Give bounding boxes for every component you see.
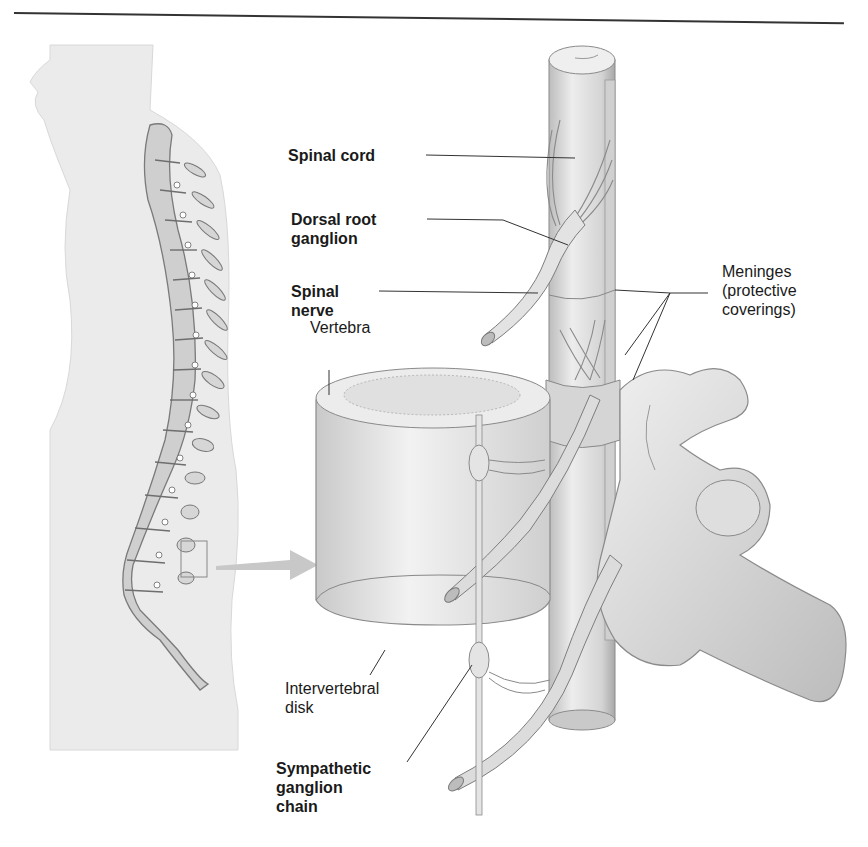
body-silhouette [30,45,238,750]
label-dorsal-root-ganglion: Dorsal root ganglion [291,210,376,248]
label-meninges: Meninges (protective coverings) [722,262,797,319]
label-intervertebral-disk: Intervertebral disk [285,679,379,717]
vertebra-body-illustration [316,368,550,625]
label-spinal-nerve: Spinal nerve [291,282,339,320]
label-spinal-cord: Spinal cord [288,146,375,165]
label-vertebra: Vertebra [310,318,370,337]
vertebra-processes-illustration [597,369,846,702]
anatomy-illustration [0,0,868,847]
label-sympathetic-ganglion-chain: Sympathetic ganglion chain [276,759,371,816]
